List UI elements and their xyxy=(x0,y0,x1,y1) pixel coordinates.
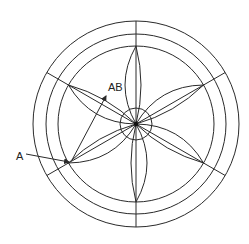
blade-curve xyxy=(131,124,136,202)
blade-curve xyxy=(136,46,141,124)
arrow-a-leader xyxy=(26,154,69,162)
blade-curve xyxy=(125,46,136,124)
center-point xyxy=(134,122,138,126)
spoke-line xyxy=(136,124,225,176)
label-ab: AB xyxy=(108,81,123,93)
spoke-line xyxy=(47,124,136,176)
spoke-line xyxy=(136,73,225,125)
blade-curve xyxy=(136,124,147,202)
pinwheel-diagram: A AB xyxy=(0,0,249,244)
label-a: A xyxy=(16,150,24,162)
arrow-ab-dimension xyxy=(72,96,106,160)
